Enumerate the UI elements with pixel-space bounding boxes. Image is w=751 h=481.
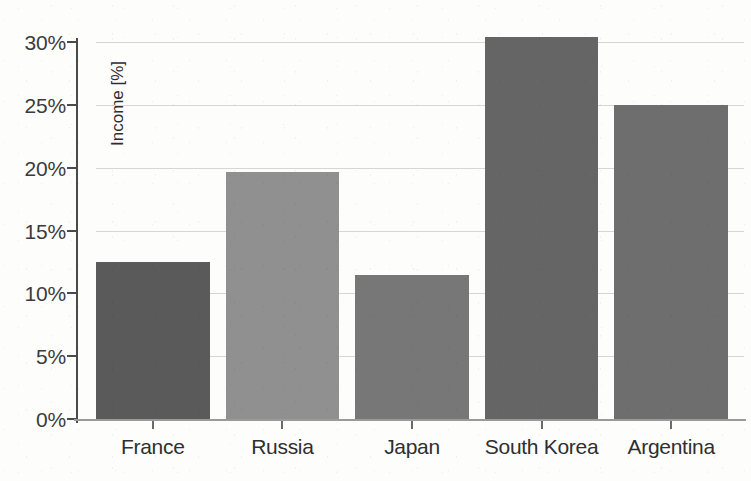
x-axis-tick-mark (152, 421, 154, 429)
x-axis-tick-label: South Korea (485, 435, 598, 459)
y-axis-tick-mark (67, 41, 76, 43)
y-axis-tick-mark (67, 167, 76, 169)
x-axis-tick-label: France (121, 435, 185, 459)
x-axis-line (74, 419, 746, 421)
x-axis-tick-label: Argentina (628, 435, 715, 459)
bar (226, 172, 340, 419)
y-axis-tick-label: 20% (2, 157, 66, 178)
y-axis-tick-mark (67, 230, 76, 232)
y-axis-tick-label: 30% (2, 32, 66, 53)
y-axis-tick-mark (67, 104, 76, 106)
bar (614, 105, 728, 419)
y-axis-tick-mark (67, 292, 76, 294)
bar (96, 262, 210, 419)
bar-chart: Income [%] 0%5%10%15%20%25%30% FranceRus… (0, 0, 751, 481)
bar (485, 37, 599, 419)
y-axis-tick-label: 0% (2, 409, 66, 430)
x-axis-tick-mark (670, 421, 672, 429)
x-axis-tick-mark (281, 421, 283, 429)
gridline (96, 42, 744, 43)
y-axis-tick-label: 10% (2, 283, 66, 304)
y-axis-tick-label: 5% (2, 346, 66, 367)
y-axis-tick-label: 15% (2, 220, 66, 241)
bar (355, 275, 469, 419)
x-axis-tick-label: Russia (251, 435, 313, 459)
x-axis-tick-label: Japan (384, 435, 440, 459)
plot-area (96, 30, 744, 419)
x-axis-tick-mark (411, 421, 413, 429)
x-axis-tick-mark (541, 421, 543, 429)
y-axis-tick-label: 25% (2, 95, 66, 116)
y-axis-line (76, 38, 78, 423)
y-axis-tick-mark (67, 355, 76, 357)
